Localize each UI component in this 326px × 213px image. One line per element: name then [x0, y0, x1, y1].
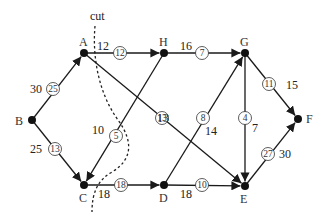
node-label: E [240, 192, 247, 206]
capacity-value: 7 [252, 121, 258, 135]
edge-d-g: 814 [164, 57, 243, 185]
flow-value: 12 [115, 48, 125, 58]
capacity-value: 18 [180, 187, 192, 201]
node-h: H [159, 35, 168, 57]
node-dot [160, 49, 168, 57]
edge-a-e: 1313 [84, 53, 242, 183]
node-a: A [79, 35, 88, 57]
flow-value: 5 [114, 131, 119, 141]
flow-value: 11 [264, 79, 273, 89]
capacity-value: 14 [205, 124, 217, 138]
node-label: F [306, 112, 313, 126]
node-dot [241, 49, 249, 57]
node-c: C [79, 181, 88, 205]
capacity-value: 12 [97, 39, 109, 53]
node-dot [160, 181, 168, 189]
node-dot [80, 181, 88, 189]
capacity-value: 25 [30, 142, 42, 156]
node-b: B [15, 114, 36, 128]
node-dot [80, 49, 88, 57]
flow-value: 8 [201, 113, 206, 123]
node-g: G [240, 35, 249, 57]
node-label: C [79, 191, 87, 205]
edge-d-e: 1018 [164, 179, 241, 202]
edge-c-d: 1818 [84, 179, 160, 202]
flow-value: 25 [48, 84, 58, 94]
cut-label: cut [90, 9, 105, 23]
capacity-value: 30 [279, 147, 291, 161]
edge-h-g: 716 [164, 39, 241, 60]
edge-g-f: 1115 [245, 53, 298, 115]
flow-value: 27 [263, 149, 273, 159]
node-label: D [159, 191, 168, 205]
node-label: H [159, 35, 168, 49]
network-flow-diagram: cut 253013251212716510131318188141018471… [0, 0, 326, 213]
edge-g-e: 47 [239, 53, 259, 182]
flow-value: 13 [50, 144, 60, 154]
node-label: A [79, 35, 88, 49]
capacity-value: 18 [98, 187, 110, 201]
node-label: B [15, 114, 23, 128]
capacity-value: 16 [180, 39, 192, 53]
edge-b-a: 2530 [30, 57, 81, 120]
node-dot [28, 116, 36, 124]
node-label: G [240, 35, 249, 49]
node-e: E [240, 182, 249, 206]
flow-value: 4 [243, 113, 248, 123]
flow-value: 18 [116, 180, 126, 190]
node-dot [241, 182, 249, 190]
capacity-value: 15 [286, 78, 298, 92]
flow-value: 7 [200, 48, 205, 58]
edge-b-c: 1325 [30, 120, 81, 181]
capacity-value: 10 [92, 123, 104, 137]
node-f: F [294, 112, 313, 126]
flow-value: 10 [197, 180, 207, 190]
node-d: D [159, 181, 168, 205]
edges: 2530132512127165101313181881410184711152… [30, 39, 298, 201]
node-dot [294, 115, 302, 123]
capacity-value: 30 [30, 82, 42, 96]
capacity-value: 13 [157, 111, 169, 125]
